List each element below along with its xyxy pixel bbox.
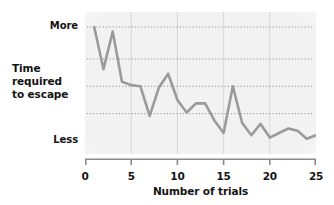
y-axis-title-line-3: to escape [12,88,84,101]
y-axis-title-line-2: required [12,75,84,88]
plot-area [85,12,316,154]
x-axis-title: Number of trials [85,185,316,197]
y-axis-tick-less: Less [32,134,78,145]
x-axis-tick-label: 15 [209,170,239,182]
x-axis-svg [85,158,316,170]
x-axis-tick-label: 5 [116,170,146,182]
y-axis-title: Time required to escape [12,62,84,102]
x-axis [85,158,316,170]
learning-curve-chart: Time required to escape More Less 051015… [0,0,334,205]
y-axis-title-line-1: Time [12,62,84,75]
x-axis-tick-label: 0 [70,170,100,182]
x-axis-ticks [85,159,316,165]
x-axis-tick-label: 25 [301,170,331,182]
x-axis-tick-label: 10 [162,170,192,182]
x-axis-tick-label: 20 [255,170,285,182]
y-axis-tick-more: More [32,20,78,31]
plot-svg [85,12,316,154]
data-series-line [94,27,316,139]
